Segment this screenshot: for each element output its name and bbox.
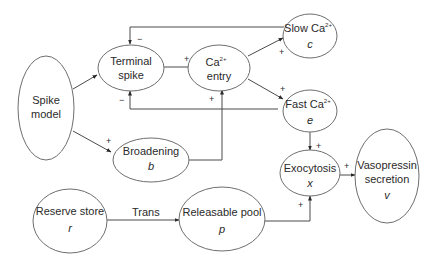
terminal-spike-line1: Terminal <box>110 55 152 67</box>
edge-spike-model-to-terminal-spike <box>73 75 97 89</box>
broadening-var: b <box>148 160 154 172</box>
sign-fast-to-terminal: − <box>119 95 124 105</box>
vasopressin-secretion-model-diagram: + + + + + − − + + + Trans Spike <box>0 0 438 263</box>
node-releasable-pool: Releasable pool p <box>179 187 265 251</box>
exocytosis-label: Exocytosis <box>284 162 337 174</box>
spike-model-line1: Spike <box>32 94 60 106</box>
ca-entry-line2: entry <box>207 70 232 82</box>
vasopressin-line1: Vasopressin <box>357 159 417 171</box>
edge-ca-entry-to-slow-ca <box>248 38 283 56</box>
exocytosis-var: x <box>306 177 313 189</box>
node-ca-entry: Ca2+ entry <box>188 45 250 91</box>
sign-exo-to-vaso: + <box>344 161 349 171</box>
reserve-store-label: Reserve store <box>36 205 104 217</box>
node-slow-ca: Slow Ca2+ c <box>283 14 337 58</box>
edge-broadening-to-ca-entry <box>189 90 222 160</box>
terminal-spike-line2: spike <box>118 69 144 81</box>
releasable-pool-var: p <box>218 223 225 235</box>
node-fast-ca: Fast Ca2+ e <box>283 90 337 132</box>
sign-fast-to-exo: + <box>316 141 321 151</box>
node-vasopressin-secretion: Vasopressin secretion v <box>355 129 419 223</box>
edge-slow-ca-to-terminal-spike <box>130 27 284 44</box>
node-reserve-store: Reserve store r <box>33 189 107 253</box>
slow-ca-var: c <box>307 38 313 50</box>
node-spike-model: Spike model <box>18 56 74 160</box>
sign-ca-to-fast: + <box>280 84 285 94</box>
edge-fast-ca-to-terminal-spike <box>130 91 278 109</box>
fast-ca-var: e <box>307 114 313 126</box>
sign-spike-to-broadening: + <box>106 136 111 146</box>
sign-slow-to-terminal: − <box>137 34 142 44</box>
spike-model-line2: model <box>31 108 61 120</box>
node-exocytosis: Exocytosis x <box>280 150 340 196</box>
node-broadening: Broadening b <box>113 138 189 182</box>
releasable-pool-label: Releasable pool <box>183 206 262 218</box>
broadening-label: Broadening <box>123 145 179 157</box>
trans-label: Trans <box>132 206 160 218</box>
sign-ca-to-slow: + <box>279 47 284 57</box>
edge-ca-entry-to-fast-ca <box>248 79 283 99</box>
sign-broadening-to-ca: + <box>209 94 214 104</box>
node-terminal-spike: Terminal spike <box>98 45 164 91</box>
vasopressin-line2: secretion <box>365 173 410 185</box>
sign-pool-to-exo: + <box>298 200 303 210</box>
